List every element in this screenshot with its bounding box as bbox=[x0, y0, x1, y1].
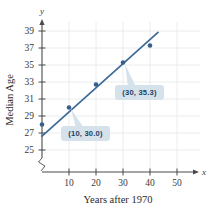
data-point bbox=[67, 105, 72, 110]
callout-10-30: (10, 30.0) bbox=[61, 109, 110, 141]
y-tick-label-33: 33 bbox=[25, 77, 35, 87]
callout-tail-1 bbox=[71, 109, 84, 128]
x-tick-label-20: 20 bbox=[91, 178, 101, 188]
x-axis-variable-label: x bbox=[201, 167, 206, 177]
y-tick-label-37: 37 bbox=[25, 43, 35, 53]
callout-label-2: (30, 35.3) bbox=[122, 88, 157, 97]
x-tick-label-10: 10 bbox=[64, 178, 74, 188]
y-tick-label-27: 27 bbox=[25, 128, 35, 138]
callout-label-1: (10, 30.0) bbox=[68, 129, 103, 138]
y-axis-variable-label: y bbox=[39, 6, 44, 16]
y-tick-label-25: 25 bbox=[25, 145, 35, 155]
x-axis-title: Years after 1970 bbox=[84, 194, 153, 205]
y-tick-label-31: 31 bbox=[25, 94, 35, 104]
chart-canvas: 39 37 35 33 31 29 27 25 10 20 30 40 50 y… bbox=[0, 0, 208, 213]
y-axis-break-icon bbox=[39, 158, 46, 171]
data-point bbox=[40, 122, 45, 127]
y-tick-label-35: 35 bbox=[25, 60, 35, 70]
data-point bbox=[121, 60, 126, 65]
x-tick-label-50: 50 bbox=[172, 178, 182, 188]
y-axis-arrowhead bbox=[39, 19, 44, 25]
y-tick-labels: 39 37 35 33 31 29 27 25 bbox=[25, 26, 35, 155]
data-point bbox=[94, 82, 99, 87]
median-age-scatter-chart: 39 37 35 33 31 29 27 25 10 20 30 40 50 y… bbox=[0, 0, 208, 213]
callout-tail-2 bbox=[125, 64, 136, 87]
x-tick-label-30: 30 bbox=[118, 178, 128, 188]
y-axis-title: Median Age bbox=[4, 74, 15, 126]
y-tick-label-39: 39 bbox=[25, 26, 35, 36]
x-axis-arrowhead bbox=[193, 169, 199, 174]
y-tick-label-29: 29 bbox=[25, 111, 35, 121]
x-tick-label-40: 40 bbox=[145, 178, 155, 188]
x-tick-labels: 10 20 30 40 50 bbox=[64, 178, 182, 188]
data-point bbox=[148, 43, 153, 48]
